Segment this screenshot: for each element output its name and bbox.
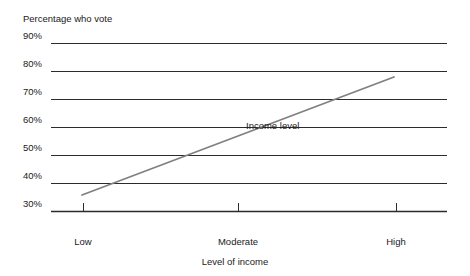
y-axis-tick-label: 90%: [23, 31, 42, 41]
data-series-group: [82, 77, 394, 195]
x-axis-title: Level of income: [202, 257, 269, 267]
y-axis-tick-label: 50%: [23, 143, 42, 153]
chart-title: Percentage who vote: [23, 14, 112, 24]
y-axis-tick-label: 30%: [23, 199, 42, 209]
data-line-income-level: [82, 77, 394, 195]
y-axis-tick-label: 40%: [23, 171, 42, 181]
y-axis-tick-label: 70%: [23, 87, 42, 97]
y-axis-tick-label: 60%: [23, 115, 42, 125]
x-axis-tick-label: Moderate: [218, 237, 258, 247]
x-axis-tick-label: Low: [74, 237, 91, 247]
x-axis-tick-label: High: [386, 237, 406, 247]
chart-plot-area: [0, 0, 470, 276]
chart-container: Percentage who vote 90%80%70%60%50%40%30…: [0, 0, 470, 276]
x-tick-marks-group: [84, 203, 397, 211]
y-axis-tick-label: 80%: [23, 59, 42, 69]
series-annotation-income-level: Income level: [246, 121, 299, 131]
